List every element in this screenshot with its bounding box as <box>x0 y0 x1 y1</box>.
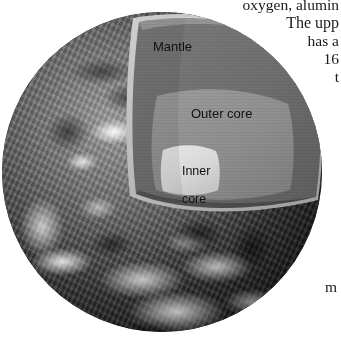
label-mantle: Mantle <box>153 40 192 54</box>
label-outer-core: Outer core <box>191 107 252 121</box>
label-inner-core: Inner core <box>168 150 210 220</box>
earth-cutaway-figure: Mantle Outer core Inner core <box>0 0 341 342</box>
label-inner-core-line2: core <box>182 192 206 206</box>
label-inner-core-line1: Inner <box>182 164 211 178</box>
